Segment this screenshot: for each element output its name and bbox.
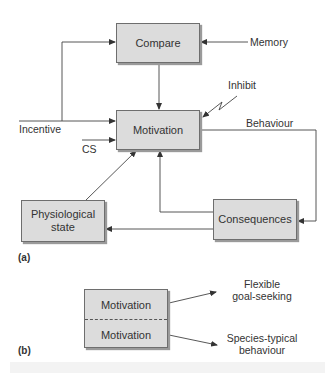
panel-b-label: (b)	[18, 345, 31, 356]
goal-seeking-line: goal-seeking	[222, 290, 302, 302]
split-motivation-node: Motivation Motivation	[84, 289, 168, 348]
physiological-state-node: Physiological state	[21, 200, 105, 242]
species-typical-behaviour-label: Species-typical behaviour	[214, 332, 310, 356]
panel-a-label: (a)	[18, 252, 30, 263]
incentive-label: Incentive	[19, 123, 61, 135]
motivation-node: Motivation	[116, 110, 200, 150]
motivation-top-label: Motivation	[85, 290, 167, 319]
memory-label: Memory	[250, 36, 288, 48]
inhibit-label: Inhibit	[228, 79, 256, 91]
flexible-goal-seeking-label: Flexible goal-seeking	[222, 278, 302, 302]
physiological-state-label: Physiological state	[28, 208, 98, 234]
cs-label: CS	[82, 143, 97, 155]
behaviour-line: behaviour	[214, 344, 310, 356]
behaviour-label: Behaviour	[246, 117, 293, 129]
compare-node: Compare	[116, 23, 200, 63]
motivation-bottom-label: Motivation	[85, 320, 167, 349]
flexible-line: Flexible	[222, 278, 302, 290]
consequences-label: Consequences	[218, 213, 291, 226]
compare-label: Compare	[135, 37, 180, 50]
species-typical-line: Species-typical	[214, 332, 310, 344]
footer-band	[10, 362, 325, 373]
motivation-label: Motivation	[133, 124, 183, 137]
consequences-node: Consequences	[213, 199, 297, 240]
